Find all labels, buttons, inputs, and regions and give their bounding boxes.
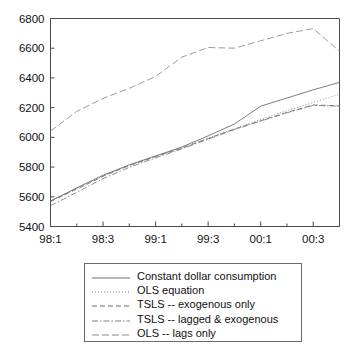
legend-item-label: TSLS -- lagged & exogenous [137,313,278,325]
y-tick-label: 6400 [19,72,45,84]
legend-item-label: OLS equation [137,284,204,296]
plot-svg: 54005600580060006200640066006800 98:198:… [0,0,349,255]
legend-item-label: OLS -- lags only [137,327,216,339]
y-axis-tick-labels: 54005600580060006200640066006800 [19,13,45,233]
y-tick-label: 6800 [19,13,45,25]
series-line-2 [51,105,340,202]
x-tick-label: 00:3 [302,233,324,245]
legend-item[interactable]: OLS -- lags only [91,326,295,340]
legend-item-label: TSLS -- exogenous only [137,298,255,310]
y-tick-label: 5800 [19,161,45,173]
legend-item[interactable]: TSLS -- lagged & exogenous [91,312,295,326]
series-line-4 [51,29,340,132]
legend-item[interactable]: TSLS -- exogenous only [91,297,295,311]
x-tick-label: 99:1 [144,233,166,245]
y-tick-label: 5600 [19,191,45,203]
legend-swatch-dotted [91,284,131,296]
line-chart: 54005600580060006200640066006800 98:198:… [0,0,349,255]
y-tick-label: 6600 [19,42,45,54]
legend-swatch-dashed [91,298,131,310]
y-tick-label: 6200 [19,102,45,114]
y-tick-label: 6000 [19,131,45,143]
legend-swatch-dashdot [91,313,131,325]
series-line-1 [51,94,340,201]
data-series-group [51,29,340,206]
x-axis-tick-marks [51,222,340,227]
y-tick-label: 5400 [19,221,45,233]
y-axis-tick-marks [51,19,55,227]
legend-item[interactable]: OLS equation [91,283,295,297]
x-tick-label: 00:1 [249,233,271,245]
x-tick-label: 98:3 [92,233,114,245]
x-tick-label: 99:3 [197,233,219,245]
legend-swatch-solid [91,270,131,282]
plot-frame [51,19,340,227]
chart-legend: Constant dollar consumptionOLS equationT… [84,263,302,342]
chart-screenshot: 54005600580060006200640066006800 98:198:… [0,0,349,351]
x-axis-tick-labels: 98:198:399:199:300:100:3 [39,233,324,245]
series-line-3 [51,105,340,205]
legend-item[interactable]: Constant dollar consumption [91,269,295,283]
legend-swatch-longdash [91,327,131,339]
legend-item-label: Constant dollar consumption [137,270,276,282]
x-tick-label: 98:1 [39,233,61,245]
